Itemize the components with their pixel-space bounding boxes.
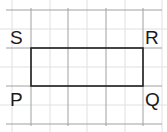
grid-diagram: S R P Q — [0, 0, 167, 132]
vertex-label-s: S — [10, 28, 23, 47]
grid-lines — [0, 0, 167, 132]
vertex-label-q: Q — [145, 90, 160, 109]
vertex-label-p: P — [10, 90, 23, 109]
vertex-label-r: R — [145, 28, 159, 47]
